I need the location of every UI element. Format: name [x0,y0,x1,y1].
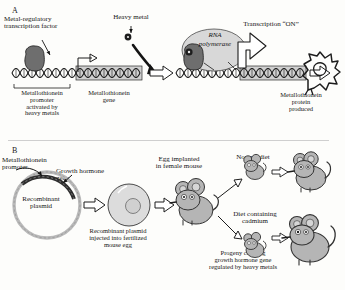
process-arrow-1 [150,66,173,80]
metallothionein-protein-graphic [294,50,345,96]
mouse-progeny-top [244,154,266,179]
mouse-normal-diet [288,152,331,192]
transcription-on-arrow [238,33,266,68]
branch-arrow-up-head [234,179,242,187]
label-rna-polymerase-line2: polymerase [186,41,244,48]
branch-arrow-down-line [218,216,236,234]
label-mt-gene-a: Metallothionein gene [78,90,140,104]
process-arrow-b2 [155,198,174,212]
promoter-bracket [14,84,70,88]
protein-loop [314,63,327,76]
heavy-metal-path [133,45,152,69]
panel-b-graphics [0,140,337,290]
branch-arrow-up-line [218,184,236,198]
heavy-metal-dot-bound-core [188,51,190,53]
label-mt-protein-a: Metallothionein protein produced [266,92,336,112]
egg-nucleus [126,199,141,214]
label-mt-promoter-a: Metallothionein promoter activated by he… [4,90,80,117]
protein-ribbon [303,52,340,90]
heavy-metal-dot-left-core [127,36,129,38]
mouse-female [170,179,218,226]
label-rna-polymerase-line1: RNA [190,32,240,39]
transcription-factor-blob [25,46,45,71]
panel-a-graphics [0,0,337,145]
mouse-cadmium-diet [282,215,335,265]
branch-arrow-down-head [234,231,242,239]
process-arrow-b1 [84,198,105,212]
process-arrow-normal-diet [272,167,288,177]
mouse-progeny-bottom [244,232,266,257]
